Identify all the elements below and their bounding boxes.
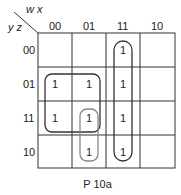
col-header: 11 (117, 21, 128, 32)
col-header: 10 (151, 21, 163, 32)
cell-value: 1 (120, 45, 126, 56)
cell-value: 1 (120, 113, 126, 124)
cell-value: 1 (52, 113, 58, 124)
col-variable-label: w x (26, 4, 43, 15)
col-header: 01 (83, 21, 95, 32)
figure-caption: P 10a (0, 178, 181, 190)
col-header: 00 (49, 21, 61, 32)
row-header: 11 (23, 113, 34, 124)
row-header: 01 (23, 79, 35, 90)
cell-value: 1 (120, 79, 126, 90)
cell-value: 1 (86, 79, 92, 90)
cell-value: 1 (120, 147, 126, 158)
cell-value: 1 (86, 147, 92, 158)
row-header: 10 (23, 147, 35, 158)
cell-value: 1 (86, 113, 92, 124)
cell-value: 1 (52, 79, 58, 90)
row-variable-label: y z (8, 22, 22, 33)
row-header: 00 (23, 45, 35, 56)
